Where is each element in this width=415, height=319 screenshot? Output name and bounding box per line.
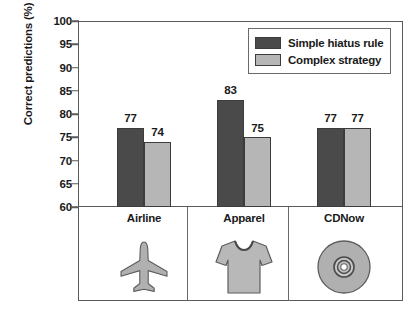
bar-apparel-complex-strategy[interactable] — [244, 137, 271, 207]
y-tick-label-85: 85 — [46, 85, 72, 97]
category-label-apparel: Apparel — [223, 212, 264, 224]
legend-swatch-light-icon — [255, 54, 281, 66]
category-label-cdnow: CDNow — [324, 212, 364, 224]
y-tick-label-75: 75 — [46, 131, 72, 143]
legend: Simple hiatus rule Complex strategy — [248, 28, 391, 74]
y-axis-ticks: 100 95 90 85 80 75 70 65 60 — [40, 0, 72, 319]
y-tick-label-60: 60 — [46, 201, 72, 213]
y-tick-label-70: 70 — [46, 155, 72, 167]
y-tick-label-95: 95 — [46, 38, 72, 50]
bar-airline-complex-strategy[interactable] — [144, 142, 171, 207]
legend-item-simple-hiatus-rule[interactable]: Simple hiatus rule — [255, 34, 383, 51]
y-tick-label-65: 65 — [46, 178, 72, 190]
bar-value-cdnow-complex-strategy: 77 — [351, 112, 363, 124]
legend-label-simple-hiatus-rule: Simple hiatus rule — [288, 37, 383, 49]
panel-separator-1 — [187, 207, 188, 301]
bar-value-cdnow-simple-hiatus-rule: 77 — [324, 112, 336, 124]
airplane-icon — [118, 240, 170, 296]
y-tick-label-100: 100 — [46, 15, 72, 27]
compact-disc-icon — [315, 238, 373, 296]
legend-label-complex-strategy: Complex strategy — [288, 54, 381, 66]
bar-cdnow-complex-strategy[interactable] — [344, 128, 371, 207]
panel-separator-2 — [288, 207, 289, 301]
legend-item-complex-strategy[interactable]: Complex strategy — [255, 51, 383, 68]
bar-apparel-simple-hiatus-rule[interactable] — [217, 100, 244, 207]
bar-airline-simple-hiatus-rule[interactable] — [117, 128, 144, 207]
bar-value-apparel-simple-hiatus-rule: 83 — [224, 84, 236, 96]
bar-cdnow-simple-hiatus-rule[interactable] — [317, 128, 344, 207]
legend-swatch-dark-icon — [255, 37, 281, 49]
tshirt-icon — [213, 238, 275, 296]
bar-value-apparel-complex-strategy: 75 — [251, 122, 263, 134]
bar-value-airline-complex-strategy: 74 — [151, 126, 163, 138]
bar-chart-figure: Correct predictions (%) 100 95 90 85 80 … — [0, 0, 415, 319]
category-label-airline: Airline — [127, 212, 161, 224]
y-axis-title: Correct predictions (%) — [22, 0, 34, 154]
y-tick-label-80: 80 — [46, 108, 72, 120]
y-tick-label-90: 90 — [46, 62, 72, 74]
bar-value-airline-simple-hiatus-rule: 77 — [124, 112, 136, 124]
